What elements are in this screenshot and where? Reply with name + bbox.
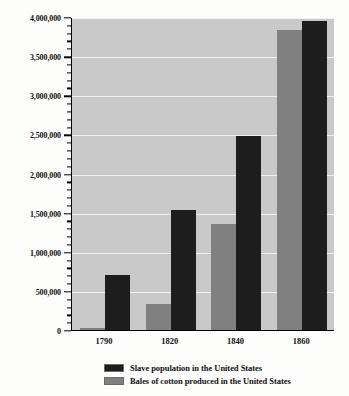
chart-figure: 0500,0001,000,0001,500,0002,000,0002,500… bbox=[0, 0, 349, 396]
bar-slaves[interactable] bbox=[171, 210, 196, 331]
y-tick-major bbox=[64, 291, 71, 292]
x-axis: 1790182018401860 bbox=[71, 336, 334, 352]
bar-cotton[interactable] bbox=[277, 30, 302, 330]
bar-cotton[interactable] bbox=[146, 304, 171, 330]
x-tick-label: 1790 bbox=[95, 336, 112, 346]
bar-group bbox=[80, 18, 130, 330]
y-tick-major bbox=[64, 330, 71, 331]
y-tick-label: 3,000,000 bbox=[30, 92, 61, 101]
y-tick-major bbox=[64, 174, 71, 175]
bar-group bbox=[146, 18, 196, 330]
y-tick-major bbox=[64, 56, 71, 57]
y-tick-major bbox=[64, 96, 71, 97]
bar-group bbox=[211, 18, 261, 330]
legend-swatch-slaves bbox=[104, 364, 124, 372]
y-tick-major bbox=[64, 135, 71, 136]
legend-label-slaves: Slave population in the United States bbox=[130, 363, 262, 373]
x-tick-label: 1840 bbox=[227, 336, 244, 346]
legend-swatch-cotton bbox=[104, 377, 124, 385]
y-tick-major bbox=[64, 252, 71, 253]
bar-slaves[interactable] bbox=[236, 136, 261, 330]
y-tick-label: 2,500,000 bbox=[30, 131, 61, 140]
y-axis: 0500,0001,000,0001,500,0002,000,0002,500… bbox=[0, 0, 71, 340]
plot-area bbox=[71, 18, 334, 331]
x-tick-label: 1820 bbox=[161, 336, 178, 346]
bar-slaves[interactable] bbox=[302, 21, 327, 330]
bar-cotton[interactable] bbox=[80, 328, 105, 330]
chart-legend: Slave population in the United States Ba… bbox=[104, 362, 349, 388]
bar-group bbox=[277, 18, 327, 330]
y-tick-major bbox=[64, 213, 71, 214]
y-tick-label: 3,500,000 bbox=[30, 53, 61, 62]
y-tick-label: 0 bbox=[57, 327, 61, 336]
legend-label-cotton: Bales of cotton produced in the United S… bbox=[130, 376, 291, 386]
y-tick-major bbox=[64, 17, 71, 18]
y-tick-label: 1,500,000 bbox=[30, 209, 61, 218]
bar-slaves[interactable] bbox=[105, 275, 130, 330]
legend-item-slaves: Slave population in the United States bbox=[104, 362, 349, 374]
y-tick-label: 4,000,000 bbox=[30, 14, 61, 23]
x-tick-label: 1860 bbox=[293, 336, 310, 346]
y-tick-label: 500,000 bbox=[36, 287, 61, 296]
y-tick-label: 1,000,000 bbox=[30, 248, 61, 257]
bar-cotton[interactable] bbox=[211, 224, 236, 330]
legend-item-cotton: Bales of cotton produced in the United S… bbox=[104, 375, 349, 387]
y-tick-label: 2,000,000 bbox=[30, 170, 61, 179]
